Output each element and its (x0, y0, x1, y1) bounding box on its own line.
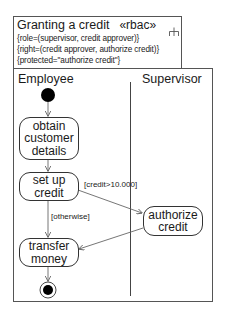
guard-otherwise: [otherwise] (51, 212, 90, 221)
action-transfer-money: transfer money (19, 238, 79, 267)
action-line: transfer (29, 240, 70, 253)
initial-node (41, 88, 55, 102)
action-line: set up (33, 174, 66, 187)
action-line: details (32, 145, 67, 158)
action-line: money (31, 253, 67, 266)
action-line: credit (158, 221, 187, 234)
action-line: customer (24, 132, 73, 145)
action-authorize-credit: authorize credit (143, 206, 203, 236)
guard-credit-over-threshold: [credit>10.000] (84, 180, 137, 189)
action-set-up-credit: set up credit (19, 172, 79, 201)
final-node (43, 285, 53, 295)
action-obtain-customer-details: obtain customer details (19, 117, 79, 160)
action-line: credit (34, 187, 63, 200)
edge-authorize-to-transfer (79, 228, 143, 249)
edge-setup-to-authorize (78, 190, 142, 213)
